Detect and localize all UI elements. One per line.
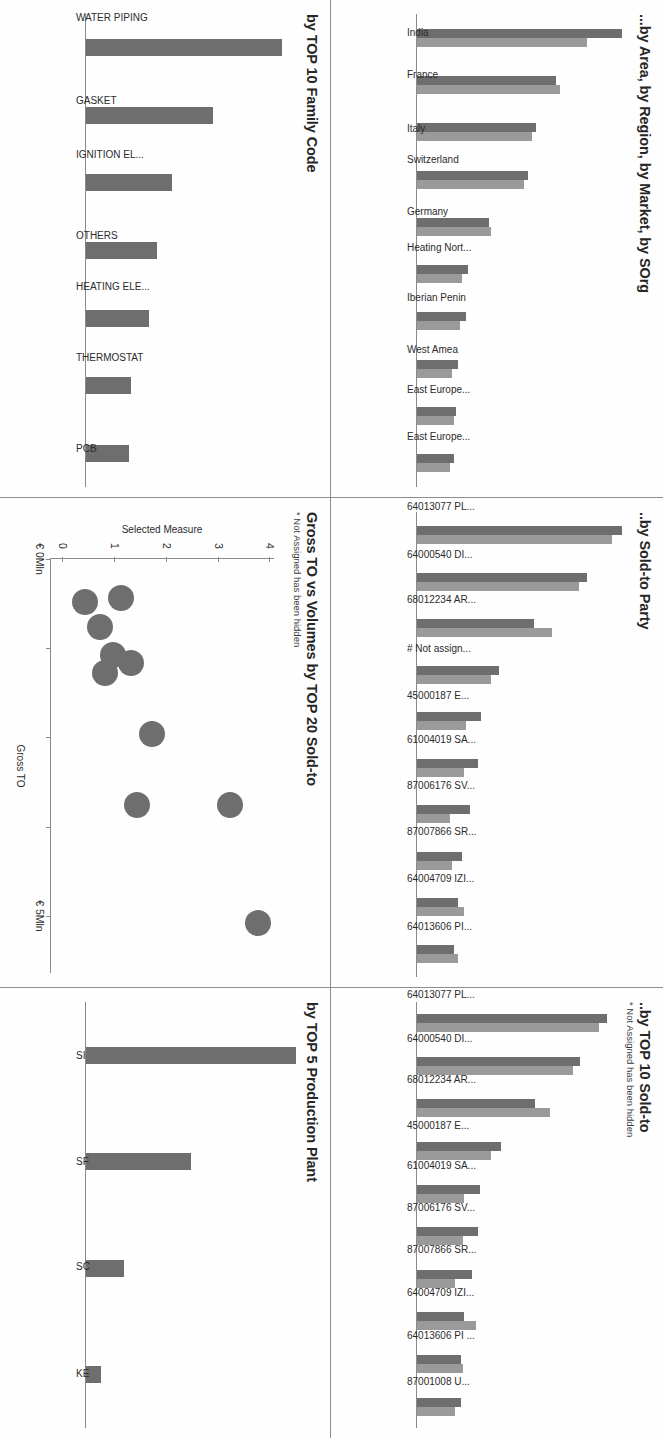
bar-group[interactable]: [86, 1215, 296, 1322]
scatter-point[interactable]: [217, 792, 243, 818]
bar-1[interactable]: [417, 852, 462, 861]
bar-1[interactable]: [417, 360, 458, 369]
bar-1[interactable]: [417, 171, 528, 180]
bar-group[interactable]: [86, 1109, 296, 1216]
bar-1[interactable]: [417, 898, 458, 907]
bar-group[interactable]: [86, 1002, 296, 1109]
bar-1[interactable]: [86, 242, 157, 259]
bar-1[interactable]: [417, 1312, 465, 1321]
bar-1[interactable]: [417, 123, 536, 132]
bar-1[interactable]: [86, 377, 131, 394]
bar-2[interactable]: [417, 628, 552, 637]
bar-2[interactable]: [417, 416, 454, 425]
bar-1[interactable]: [86, 1260, 124, 1277]
bar-1[interactable]: [86, 107, 213, 124]
category-label: PCB: [4, 419, 82, 487]
bar-2[interactable]: [417, 369, 452, 378]
bar-group[interactable]: [417, 14, 622, 61]
scatter-point[interactable]: [124, 792, 150, 818]
plot-area: [85, 1002, 296, 1428]
bar-1[interactable]: [417, 265, 468, 274]
bar-2[interactable]: [417, 535, 612, 544]
bar-2[interactable]: [417, 1407, 455, 1416]
scatter-point[interactable]: [245, 910, 271, 936]
bar-group[interactable]: [417, 61, 622, 108]
bar-1[interactable]: [417, 526, 622, 535]
bar-1[interactable]: [417, 1270, 472, 1279]
bar-group[interactable]: [86, 14, 282, 82]
bar-2[interactable]: [417, 907, 464, 916]
bar-2[interactable]: [417, 463, 450, 472]
bar-group[interactable]: [86, 419, 282, 487]
bar-1[interactable]: [417, 1398, 461, 1407]
bar-2[interactable]: [417, 132, 532, 141]
panel-gross-to-vs-volumes[interactable]: Gross TO vs Volumes by TOP 20 Sold-to * …: [0, 498, 330, 988]
bar-2[interactable]: [417, 1364, 463, 1373]
bar-1[interactable]: [417, 805, 470, 814]
bar-group[interactable]: [417, 440, 622, 487]
scatter-point[interactable]: [92, 660, 118, 686]
plot-area: [416, 1002, 607, 1428]
bar-group[interactable]: [86, 1322, 296, 1429]
chart-top10-sold-to: 64013077 PL...64000540 DI...68012234 AR.…: [335, 1002, 607, 1428]
bar-group[interactable]: [417, 109, 622, 156]
bar-group[interactable]: [417, 1385, 607, 1428]
bar-1[interactable]: [417, 712, 481, 721]
bar-2[interactable]: [417, 675, 491, 684]
bar-1[interactable]: [417, 573, 587, 582]
bar-2[interactable]: [417, 861, 452, 870]
bar-1[interactable]: [417, 759, 479, 768]
bar-1[interactable]: [417, 945, 454, 954]
bar-1[interactable]: [417, 312, 466, 321]
bar-2[interactable]: [417, 768, 464, 777]
bar-2[interactable]: [417, 814, 450, 823]
bar-2[interactable]: [417, 180, 524, 189]
bar-1[interactable]: [417, 1227, 478, 1236]
bar-2[interactable]: [417, 85, 561, 94]
scatter-point[interactable]: [87, 614, 113, 640]
bar-1[interactable]: [417, 29, 622, 38]
bar-1[interactable]: [86, 1047, 296, 1064]
bar-group[interactable]: [417, 298, 622, 345]
bar-1[interactable]: [86, 174, 172, 191]
bar-1[interactable]: [417, 1014, 607, 1023]
bar-group[interactable]: [86, 217, 282, 285]
x-axis-tickmark: [46, 648, 51, 649]
bar-1[interactable]: [417, 218, 489, 227]
bar-1[interactable]: [417, 454, 454, 463]
bar-1[interactable]: [417, 1142, 501, 1151]
bar-group[interactable]: [86, 82, 282, 150]
panel-sold-to-party[interactable]: ..by Sold-to Party 64013077 PL...6400054…: [330, 498, 663, 988]
bar-2[interactable]: [417, 1108, 550, 1117]
bar-2[interactable]: [417, 954, 458, 963]
bar-1[interactable]: [417, 666, 499, 675]
bar-1[interactable]: [417, 1355, 461, 1364]
panel-production-plant[interactable]: by TOP 5 Production Plant SISFSCKE: [0, 988, 330, 1438]
bar-1[interactable]: [86, 310, 149, 327]
bar-1[interactable]: [417, 1185, 480, 1194]
bar-1[interactable]: [417, 1057, 580, 1066]
panel-family-code[interactable]: by TOP 10 Family Code WATER PIPINGGASKET…: [0, 0, 330, 498]
bar-2[interactable]: [417, 1023, 599, 1032]
panel-top10-sold-to[interactable]: ..by TOP 10 Sold-to * Not Assigned has b…: [330, 988, 663, 1438]
bar-1[interactable]: [417, 407, 456, 416]
scatter-point[interactable]: [139, 721, 165, 747]
bar-2[interactable]: [417, 582, 579, 591]
scatter-point[interactable]: [108, 585, 134, 611]
category-label: 45000187 E...: [335, 698, 413, 745]
category-labels: SISFSCKE: [4, 1002, 82, 1428]
bar-2[interactable]: [417, 721, 466, 730]
bar-1[interactable]: [417, 1099, 535, 1108]
panel-area-region-market-sorg[interactable]: ...by Area, by Region, by Market, by SOr…: [330, 0, 663, 498]
bar-2[interactable]: [417, 227, 491, 236]
category-label: West Amea: [335, 345, 413, 392]
bar-1[interactable]: [86, 1153, 191, 1170]
bar-2[interactable]: [417, 274, 462, 283]
bar-1[interactable]: [417, 619, 534, 628]
bar-2[interactable]: [417, 321, 460, 330]
bar-2[interactable]: [417, 38, 587, 47]
bar-group[interactable]: [417, 931, 622, 978]
bar-group[interactable]: [86, 284, 282, 352]
bar-1[interactable]: [86, 39, 282, 56]
scatter-point[interactable]: [72, 589, 98, 615]
